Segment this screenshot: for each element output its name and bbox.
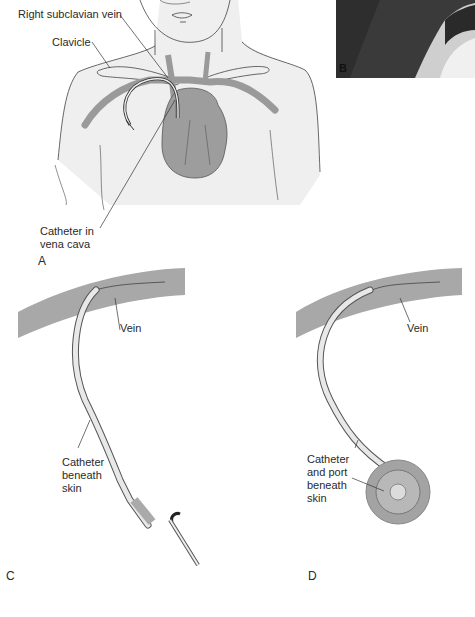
label-vein-d: Vein: [407, 322, 428, 335]
panel-c-illustration: [18, 268, 198, 565]
label-catheter-and-port: Catheter and port beneath skin: [307, 453, 349, 505]
label-vein-c: Vein: [120, 322, 141, 335]
panel-letter-a: A: [38, 254, 46, 268]
label-catheter-beneath-skin: Catheter beneath skin: [62, 456, 104, 495]
panel-letter-c: C: [6, 569, 15, 583]
panel-b-photo: [336, 0, 475, 78]
label-catheter-vena-cava: Catheter in vena cava: [40, 225, 94, 251]
label-right-subclavian-vein: Right subclavian vein: [18, 8, 122, 21]
label-clavicle: Clavicle: [52, 36, 91, 49]
panel-letter-b: B: [339, 62, 347, 74]
panel-letter-d: D: [308, 569, 317, 583]
panel-a-illustration: [55, 0, 320, 228]
figure-canvas: [0, 0, 475, 617]
